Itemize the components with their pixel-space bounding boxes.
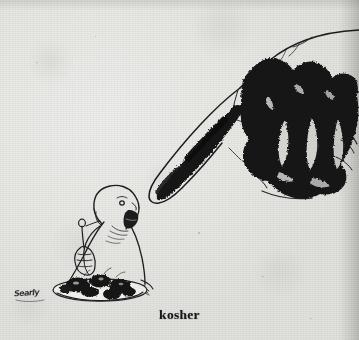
- pointing-hand: [149, 30, 359, 203]
- cartoon-page: Searly kosher: [0, 0, 359, 340]
- artist-signature: Searly: [14, 288, 58, 302]
- cartoon-caption: kosher: [0, 307, 359, 323]
- plate-of-food: [53, 268, 147, 301]
- artist-signature-text: Searly: [14, 287, 58, 298]
- beard-hatching: [106, 226, 128, 243]
- index-finger-shading: [157, 105, 243, 200]
- fist-holding-fork: [75, 247, 95, 276]
